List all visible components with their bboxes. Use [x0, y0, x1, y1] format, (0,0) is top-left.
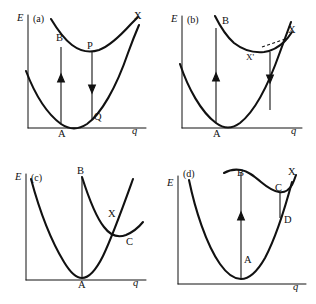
panel-tag-d: (d) — [183, 169, 195, 179]
point-label-b-c: B — [77, 166, 84, 177]
panel-b: E (b) q B X' X A — [158, 0, 316, 152]
panel-tag-a: (a) — [33, 14, 44, 24]
emission-arrow-a — [89, 51, 96, 120]
ground-state-parabola-b — [180, 22, 291, 128]
point-label-p-a: P — [87, 41, 93, 52]
y-axis-label-c: E — [15, 172, 21, 183]
point-label-b-d: B — [237, 168, 244, 179]
panel-tag-b: (b) — [187, 15, 199, 25]
point-label-x-b: X — [288, 25, 296, 36]
y-axis-label-d: E — [167, 178, 173, 189]
absorption-arrow-b — [213, 28, 220, 123]
y-axis-label-b: E — [171, 14, 177, 25]
point-label-b-b: B — [222, 16, 229, 27]
excited-state-wavy-curve-d — [224, 170, 296, 193]
ground-state-parabola-a — [26, 25, 139, 129]
point-label-x-prime-b: X' — [246, 53, 254, 62]
panel-d: E (d) q B X C D A — [158, 152, 316, 304]
configuration-coordinate-figure: E (a) q B P X A Q — [0, 0, 316, 304]
point-label-q-a: Q — [94, 112, 102, 123]
point-label-a-d: A — [244, 255, 252, 266]
x-axis-label-a: q — [132, 126, 137, 137]
point-label-b-a: B — [56, 33, 63, 44]
point-label-x-c: X — [108, 209, 116, 220]
point-label-a-b: A — [213, 129, 221, 140]
point-label-a-a: A — [58, 129, 66, 140]
panel-c: E (c) q B X C A — [0, 152, 158, 304]
panel-tag-c: (c) — [31, 173, 42, 183]
point-label-a-c: A — [78, 280, 86, 291]
excited-state-parabola-c — [82, 177, 143, 236]
point-label-d-d: D — [284, 215, 292, 226]
point-label-c-d: C — [275, 183, 282, 194]
excited-state-parabola-a — [51, 17, 138, 51]
x-axis-label-b: q — [291, 126, 296, 137]
x-axis-label-d: q — [293, 282, 298, 293]
point-label-x-d: X — [288, 167, 296, 178]
point-label-x-a: X — [134, 11, 142, 22]
x-axis-label-c: q — [133, 278, 138, 289]
y-axis-label-a: E — [17, 13, 23, 24]
point-label-c-c: C — [126, 237, 133, 248]
panel-a: E (a) q B P X A Q — [0, 0, 158, 152]
absorption-arrow-a — [58, 47, 65, 124]
